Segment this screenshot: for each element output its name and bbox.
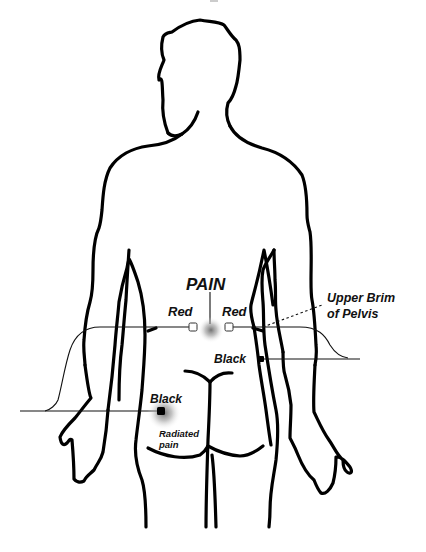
black-right-label: Black — [214, 352, 247, 366]
right-torso-line — [254, 327, 271, 445]
right-arm-inner-edge — [274, 250, 283, 352]
red-right-wire — [233, 327, 348, 358]
radiated-pain-label-line2: pain — [158, 439, 179, 450]
head-outline — [159, 20, 240, 133]
top-mark — [210, 0, 218, 2]
back-pain-electrode-diagram: PAIN Red Red Upper Brim of Pelvis Black … — [0, 0, 426, 552]
radiated-pain-label-line1: Radiated — [159, 428, 199, 439]
pain-glow-center — [198, 317, 224, 343]
buttocks-top-left — [185, 371, 210, 382]
left-flank-peak — [119, 250, 129, 400]
left-pelvis-tick — [148, 328, 156, 331]
red-left-label: Red — [168, 304, 194, 319]
red-right-label: Red — [222, 304, 248, 319]
buttock-right-crease — [208, 446, 263, 456]
upper-brim-label-line1: Upper Brim — [327, 291, 395, 305]
right-leg-inner — [212, 455, 216, 527]
upper-brim-label-line2: of Pelvis — [327, 307, 378, 321]
electrode-red-left — [189, 323, 197, 331]
gluteal-cleft — [206, 382, 210, 527]
electrode-black-right — [258, 356, 264, 362]
left-arm-outline — [60, 365, 108, 482]
buttocks-top-right — [210, 373, 232, 382]
right-arm-outline — [283, 352, 351, 493]
pain-label: PAIN — [186, 275, 226, 294]
torso-right-outline — [230, 126, 316, 365]
electrode-black-left — [157, 407, 165, 415]
torso-left-outline — [84, 134, 182, 365]
electrode-red-right — [225, 323, 233, 331]
jaw-line — [168, 112, 198, 136]
black-left-label: Black — [150, 392, 183, 406]
